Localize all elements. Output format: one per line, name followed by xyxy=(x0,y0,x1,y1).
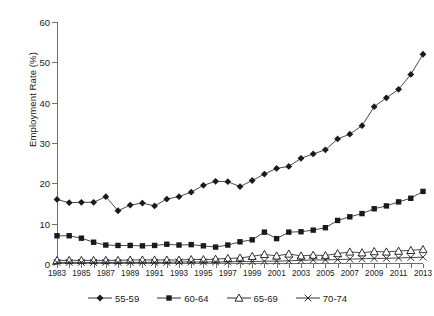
data-point-filled-square xyxy=(79,235,84,240)
data-point-open-triangle xyxy=(419,245,427,252)
x-axis-tick xyxy=(399,264,400,268)
x-axis-tick-label: 2005 xyxy=(316,269,334,278)
data-point-filled-square xyxy=(54,233,59,238)
y-axis-tick-label: 10 xyxy=(39,218,50,229)
x-axis-tick xyxy=(277,264,278,268)
x-axis-tick xyxy=(411,264,412,268)
legend-item-60-64[interactable]: 60-64 xyxy=(156,292,208,304)
legend-item-65-69[interactable]: 65-69 xyxy=(226,292,278,304)
data-point-filled-square xyxy=(67,233,72,238)
x-axis-tick xyxy=(325,264,326,268)
data-point-filled-diamond xyxy=(273,165,280,172)
x-axis-tick xyxy=(130,264,131,268)
data-point-filled-diamond xyxy=(420,51,427,58)
x-axis-tick xyxy=(338,264,339,268)
data-point-filled-square xyxy=(286,229,291,234)
x-axis-tick xyxy=(301,264,302,268)
x-axis-tick xyxy=(142,264,143,268)
data-point-filled-square xyxy=(335,218,340,223)
legend-label: 65-69 xyxy=(254,293,278,304)
legend-label: 55-59 xyxy=(115,293,139,304)
data-point-filled-diamond xyxy=(54,196,61,203)
data-point-filled-diamond xyxy=(176,193,183,200)
legend-item-70-74[interactable]: 70-74 xyxy=(295,292,347,304)
data-point-open-triangle xyxy=(370,247,378,254)
x-axis-tick xyxy=(81,264,82,268)
data-point-filled-diamond xyxy=(188,189,195,196)
x-axis-tick xyxy=(350,264,351,268)
x-axis-tick-label: 2013 xyxy=(414,269,432,278)
x-axis-tick-label: 1983 xyxy=(48,269,66,278)
data-point-open-triangle xyxy=(346,248,354,255)
data-point-filled-diamond xyxy=(237,183,244,190)
x-axis-tick-label: 1995 xyxy=(194,269,212,278)
x-axis-tick-label: 1999 xyxy=(243,269,261,278)
x-axis-tick xyxy=(228,264,229,268)
data-point-filled-diamond xyxy=(371,103,378,110)
data-point-filled-diamond xyxy=(310,150,317,157)
legend-marker-filled-square-icon xyxy=(156,292,182,304)
data-point-filled-square xyxy=(250,237,255,242)
data-point-filled-square xyxy=(347,214,352,219)
x-axis-tick-label: 1991 xyxy=(145,269,163,278)
x-axis-tick xyxy=(289,264,290,268)
data-point-filled-square xyxy=(103,242,108,247)
x-axis-tick xyxy=(362,264,363,268)
series-line xyxy=(57,191,423,247)
x-axis-tick xyxy=(167,264,168,268)
y-axis-tick-label: 30 xyxy=(39,138,50,149)
data-point-filled-square xyxy=(420,189,425,194)
x-axis-tick xyxy=(118,264,119,268)
x-axis-tick-label: 2011 xyxy=(390,269,408,278)
data-point-filled-square xyxy=(359,211,364,216)
data-point-filled-diamond xyxy=(127,202,134,209)
employment-rate-line-chart: Employment Rate (%) 0102030405060 198319… xyxy=(0,0,434,316)
data-point-filled-square xyxy=(225,242,230,247)
legend-label: 60-64 xyxy=(184,293,208,304)
x-axis-tick xyxy=(240,264,241,268)
data-point-filled-diamond xyxy=(249,177,256,184)
data-point-filled-diamond xyxy=(139,200,146,207)
x-axis-tick xyxy=(57,264,58,268)
x-axis-tick-label: 2003 xyxy=(292,269,310,278)
x-axis-tick xyxy=(106,264,107,268)
legend-marker-filled-diamond-icon xyxy=(87,292,113,304)
x-axis-tick-label: 2009 xyxy=(365,269,383,278)
x-axis-tick-label: 1997 xyxy=(219,269,237,278)
x-axis-tick-label: 1985 xyxy=(72,269,90,278)
data-point-filled-square xyxy=(128,243,133,248)
data-point-filled-square xyxy=(396,199,401,204)
data-point-filled-square xyxy=(384,203,389,208)
data-point-filled-square xyxy=(298,229,303,234)
series-layer xyxy=(57,22,423,264)
data-point-filled-diamond xyxy=(96,295,103,302)
data-point-filled-diamond xyxy=(151,203,158,210)
legend-marker-cross-x-icon xyxy=(295,292,321,304)
data-point-filled-square xyxy=(274,236,279,241)
data-point-filled-square xyxy=(189,242,194,247)
series-60-64 xyxy=(54,189,425,250)
y-axis-tick-label: 50 xyxy=(39,57,50,68)
data-point-filled-square xyxy=(237,239,242,244)
legend-marker-open-triangle-icon xyxy=(226,292,252,304)
data-point-filled-diamond xyxy=(383,94,390,101)
x-axis-tick xyxy=(191,264,192,268)
x-axis-tick-label: 1993 xyxy=(170,269,188,278)
x-axis-tick xyxy=(374,264,375,268)
data-point-filled-diamond xyxy=(285,163,292,170)
data-point-filled-square xyxy=(140,243,145,248)
x-axis-tick-label: 1987 xyxy=(97,269,115,278)
data-point-filled-square xyxy=(152,243,157,248)
legend-item-55-59[interactable]: 55-59 xyxy=(87,292,139,304)
data-point-filled-square xyxy=(311,227,316,232)
x-axis-tick xyxy=(264,264,265,268)
data-point-filled-diamond xyxy=(359,122,366,129)
y-axis-tick-label: 60 xyxy=(39,17,50,28)
data-point-filled-square xyxy=(213,244,218,249)
y-axis-title: Employment Rate (%) xyxy=(27,10,38,190)
data-point-filled-square xyxy=(408,196,413,201)
x-axis-tick xyxy=(155,264,156,268)
y-axis-tick-label: 20 xyxy=(39,178,50,189)
data-point-filled-diamond xyxy=(261,171,268,178)
data-point-filled-diamond xyxy=(163,196,170,203)
